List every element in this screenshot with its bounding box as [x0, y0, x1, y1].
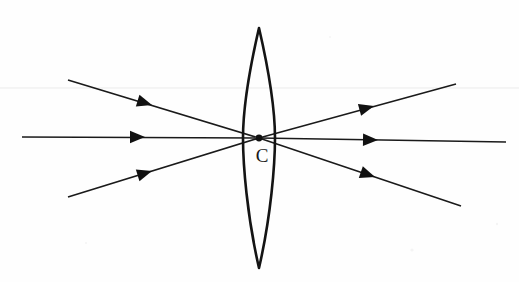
- scan-speck: [496, 223, 498, 225]
- scan-speck: [85, 242, 87, 244]
- focal-point-label: C: [256, 145, 269, 166]
- scan-speck: [329, 36, 331, 38]
- ray-diagram-canvas: C: [0, 0, 519, 282]
- scan-speck: [410, 248, 413, 251]
- focal-point-dot: [256, 135, 263, 142]
- ray-diagram-svg: C: [0, 0, 519, 282]
